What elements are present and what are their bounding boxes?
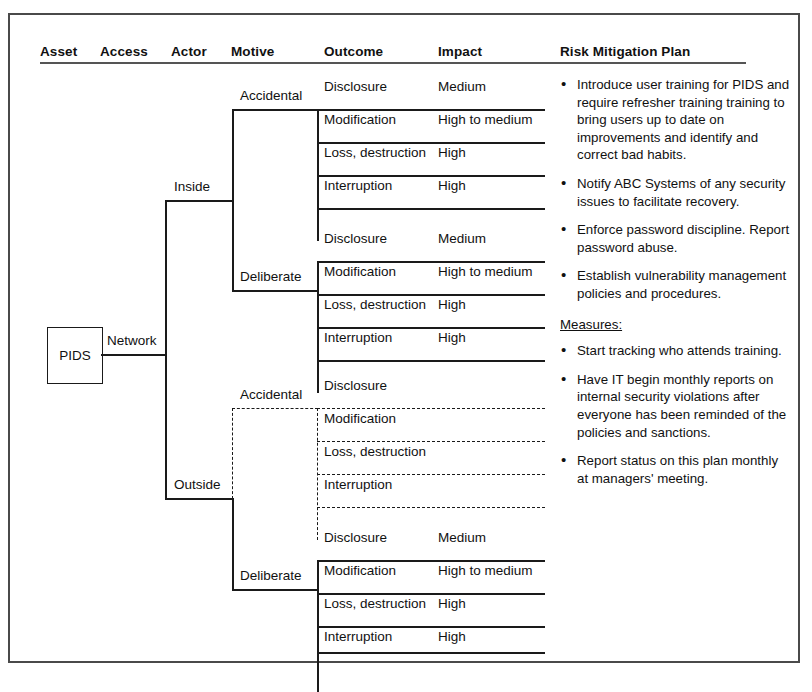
plan-item-text: Introduce user training for PIDS and req… — [577, 77, 789, 162]
outcome-cell: Modification — [324, 411, 396, 426]
row-rule — [317, 175, 545, 177]
row-rule — [317, 593, 545, 595]
outcome-cell: Disclosure — [324, 378, 387, 393]
plan-item-text: Have IT begin monthly reports on interna… — [577, 372, 786, 440]
motive-label-inside-deliberate: Deliberate — [238, 269, 304, 284]
impact-cell: High — [438, 145, 466, 160]
impact-cell: High to medium — [438, 112, 533, 127]
outcome-cell: Disclosure — [324, 530, 387, 545]
outcome-cell: Loss, destruction — [324, 444, 426, 459]
actor-label-outside: Outside — [172, 477, 223, 492]
column-header-impact: Impact — [438, 44, 482, 59]
row-rule — [317, 626, 545, 628]
row-rule-dashed — [317, 408, 545, 409]
row-rule — [317, 208, 545, 210]
subtrunk-inside-vertical — [232, 109, 234, 291]
impact-cell: High — [438, 178, 466, 193]
asset-node-pids: PIDS — [47, 327, 103, 384]
branch-outside-deliberate — [232, 589, 318, 591]
frame-border-bottom — [8, 661, 800, 663]
impact-cell: High — [438, 596, 466, 611]
bullet-icon: • — [561, 266, 566, 284]
row-rule — [317, 652, 545, 654]
row-rule — [317, 327, 545, 329]
impact-cell: High — [438, 330, 466, 345]
connector-asset-to-access — [101, 354, 166, 356]
outcome-cell: Loss, destruction — [324, 596, 426, 611]
bullet-icon: • — [561, 220, 566, 238]
impact-cell: High — [438, 297, 466, 312]
impact-cell: High — [438, 629, 466, 644]
column-header-motive: Motive — [231, 44, 274, 59]
frame-border-left — [8, 13, 10, 663]
row-rule — [317, 560, 545, 562]
outcome-cell: Modification — [324, 264, 396, 279]
row-rule-dashed — [317, 441, 545, 442]
outcome-cell: Interruption — [324, 477, 392, 492]
row-rule-dashed — [317, 474, 545, 475]
frame-border-top — [8, 13, 800, 15]
outcome-cell: Interruption — [324, 178, 392, 193]
frame-border-right — [798, 13, 800, 663]
bullet-icon: • — [561, 370, 566, 388]
access-label-network: Network — [105, 333, 159, 348]
row-rule — [317, 109, 545, 111]
impact-cell: Medium — [438, 530, 486, 545]
actor-label-inside: Inside — [172, 179, 212, 194]
impact-cell: High to medium — [438, 264, 533, 279]
plan-item-text: Establish vulnerability management polic… — [577, 268, 786, 301]
row-rule — [317, 142, 545, 144]
plan-bullet-item: • Enforce password discipline. Report pa… — [560, 221, 792, 256]
branch-inside-accidental — [232, 109, 318, 111]
outcome-cell: Modification — [324, 563, 396, 578]
branch-actor-outside — [165, 498, 233, 500]
column-header-access: Access — [100, 44, 148, 59]
impact-cell: Medium — [438, 231, 486, 246]
motive-label-inside-accidental: Accidental — [238, 88, 304, 103]
plan-bullet-item: • Establish vulnerability management pol… — [560, 267, 792, 302]
branch-inside-deliberate — [232, 290, 318, 292]
branch-actor-inside — [165, 200, 233, 202]
motive-label-outside-accidental: Accidental — [238, 387, 304, 402]
plan-item-text: Report status on this plan monthly at ma… — [577, 453, 778, 486]
row-rule — [317, 360, 545, 362]
column-header-actor: Actor — [171, 44, 207, 59]
plan-bullet-item: • Have IT begin monthly reports on inter… — [560, 371, 792, 441]
bullet-icon: • — [561, 75, 566, 93]
outcome-cell: Interruption — [324, 330, 392, 345]
bullet-icon: • — [561, 451, 566, 469]
impact-cell: Medium — [438, 79, 486, 94]
plan-bullet-item: • Introduce user training for PIDS and r… — [560, 76, 792, 164]
row-rule — [317, 261, 545, 263]
subtrunk-outside-vertical-solid — [232, 498, 234, 590]
trunk-actor-vertical — [165, 200, 167, 499]
subtrunk-outside-vertical-dashed — [232, 408, 233, 499]
plan-bullet-item: • Notify ABC Systems of any security iss… — [560, 175, 792, 210]
bullet-icon: • — [561, 174, 566, 192]
plan-item-text: Start tracking who attends training. — [577, 343, 782, 358]
outcome-cell: Loss, destruction — [324, 297, 426, 312]
column-header-asset: Asset — [40, 44, 77, 59]
motive-label-outside-deliberate: Deliberate — [238, 568, 304, 583]
row-rule — [317, 294, 545, 296]
row-rule-dashed — [317, 507, 545, 508]
risk-mitigation-plan-list: • Introduce user training for PIDS and r… — [560, 76, 792, 498]
impact-cell: High to medium — [438, 563, 533, 578]
outcome-cell: Loss, destruction — [324, 145, 426, 160]
plan-section-heading-measures: Measures: — [560, 316, 622, 334]
plan-item-text: Notify ABC Systems of any security issue… — [577, 176, 785, 209]
outcome-cell: Modification — [324, 112, 396, 127]
outcome-cell: Interruption — [324, 629, 392, 644]
branch-outside-accidental — [232, 408, 318, 409]
bullet-icon: • — [561, 341, 566, 359]
plan-bullet-item: • Start tracking who attends training. — [560, 342, 792, 360]
plan-bullet-item: • Report status on this plan monthly at … — [560, 452, 792, 487]
outcome-cell: Disclosure — [324, 79, 387, 94]
outcome-cell: Disclosure — [324, 231, 387, 246]
column-header-outcome: Outcome — [324, 44, 383, 59]
column-header-plan: Risk Mitigation Plan — [560, 44, 690, 59]
plan-item-text: Enforce password discipline. Report pass… — [577, 222, 789, 255]
header-underline — [40, 62, 746, 64]
